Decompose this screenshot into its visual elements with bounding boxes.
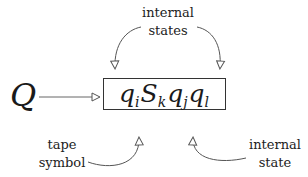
internal-state-line1: internal xyxy=(244,136,306,154)
internal-state-arrow xyxy=(193,138,246,161)
top-label-line1: internal xyxy=(128,4,208,22)
config-token: Sk xyxy=(141,79,167,110)
tape-symbol-line2: symbol xyxy=(34,154,90,172)
internal-state-line2: state xyxy=(244,154,306,172)
top-label-line2: states xyxy=(128,22,208,40)
config-token: ql xyxy=(188,79,209,110)
config-token: qi xyxy=(119,79,140,110)
input-symbol: Q xyxy=(10,78,36,112)
tape-symbol-line1: tape xyxy=(34,136,90,154)
top-label: internal states xyxy=(128,4,208,40)
tape-symbol-arrow xyxy=(88,138,139,166)
configuration-box: qi Sk qj ql xyxy=(103,78,226,110)
config-token: qj xyxy=(167,79,187,110)
internal-state-label: internal state xyxy=(244,136,306,172)
tape-symbol-label: tape symbol xyxy=(34,136,90,172)
